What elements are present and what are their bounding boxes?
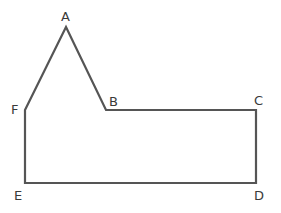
vertex-label-a: A [61, 9, 70, 24]
polygon-diagram: A B C D E F [0, 0, 281, 213]
polygon-shape [25, 27, 256, 183]
vertex-label-c: C [254, 93, 263, 108]
vertex-labels: A B C D E F [11, 9, 264, 203]
vertex-label-e: E [14, 188, 22, 203]
vertex-label-b: B [109, 94, 118, 109]
vertex-label-d: D [254, 188, 264, 203]
vertex-label-f: F [11, 102, 18, 117]
